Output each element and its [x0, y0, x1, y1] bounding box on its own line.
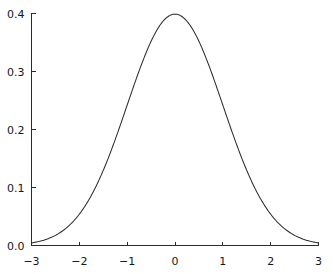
x-tick-label: 0	[172, 255, 179, 268]
normal-distribution-plot: 0.00.10.20.30.4 −3−2−10123	[0, 0, 333, 274]
y-tick-label: 0.4	[7, 8, 25, 21]
axes-group	[31, 13, 319, 246]
y-tick-label: 0.1	[7, 182, 25, 195]
y-tick-label: 0.3	[7, 66, 25, 79]
x-tick-label: −3	[23, 255, 39, 268]
x-tick-label: −2	[71, 255, 87, 268]
x-axis-ticks	[32, 242, 319, 246]
y-tick-label: 0.0	[7, 240, 25, 253]
x-tick-label: −1	[119, 255, 135, 268]
y-axis-tick-labels: 0.00.10.20.30.4	[7, 8, 25, 253]
x-tick-label: 2	[267, 255, 274, 268]
x-tick-label: 3	[315, 255, 322, 268]
x-tick-label: 1	[219, 255, 226, 268]
pdf-curve	[32, 14, 319, 243]
y-axis-ticks	[32, 14, 36, 246]
chart-figure: 0.00.10.20.30.4 −3−2−10123	[0, 0, 333, 274]
y-tick-label: 0.2	[7, 124, 25, 137]
x-axis-tick-labels: −3−2−10123	[23, 255, 322, 268]
